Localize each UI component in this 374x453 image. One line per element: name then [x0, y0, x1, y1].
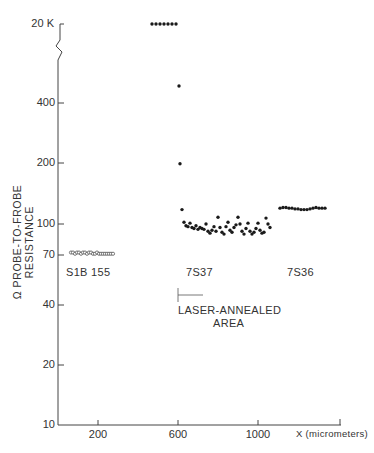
- data-point: [320, 206, 323, 209]
- data-point: [278, 206, 281, 209]
- data-point: [256, 221, 259, 224]
- xtick-1000: 1000: [238, 428, 278, 440]
- sample-label-7s36: 7S36: [287, 266, 314, 278]
- data-point: [284, 206, 287, 209]
- data-point: [214, 230, 217, 233]
- data-point: [174, 22, 177, 25]
- data-point: [180, 208, 183, 211]
- data-point: [154, 22, 157, 25]
- data-point: [290, 206, 293, 209]
- data-point: [234, 223, 237, 226]
- data-point: [262, 230, 265, 233]
- data-point: [308, 207, 311, 210]
- y-ticks: [58, 103, 64, 365]
- sample-label-7s37: 7S37: [186, 266, 213, 278]
- data-point: [317, 206, 320, 209]
- data-point: [242, 232, 245, 235]
- annealed-label: LASER-ANNEALED: [178, 304, 281, 316]
- data-point: [177, 84, 180, 87]
- annealed-label-area: AREA: [213, 317, 244, 329]
- data-point: [212, 225, 215, 228]
- data-point: [299, 208, 302, 211]
- data-point: [202, 228, 205, 231]
- data-points: [69, 22, 326, 255]
- data-point: [194, 224, 197, 227]
- data-point: [162, 22, 165, 25]
- data-point: [264, 216, 267, 219]
- laser-annealed-marker: [178, 288, 203, 302]
- data-point: [258, 229, 261, 232]
- data-point: [230, 230, 233, 233]
- x-ticks: [98, 419, 340, 425]
- data-point: [111, 252, 114, 255]
- sample-label-s1b155: S1B 155: [66, 266, 110, 278]
- data-point: [268, 226, 271, 229]
- x-axis-label: X (micrometers): [296, 428, 368, 439]
- data-point: [244, 227, 247, 230]
- data-point: [254, 227, 257, 230]
- data-point: [150, 22, 153, 25]
- data-point: [311, 206, 314, 209]
- data-point: [178, 162, 181, 165]
- data-point: [240, 230, 243, 233]
- data-point: [302, 208, 305, 211]
- ytick-10: 10: [15, 418, 55, 430]
- data-point: [166, 22, 169, 25]
- data-point: [186, 225, 189, 228]
- data-point: [296, 207, 299, 210]
- data-point: [158, 22, 161, 25]
- data-point: [248, 230, 251, 233]
- data-point: [314, 206, 317, 209]
- data-point: [222, 232, 225, 235]
- data-point: [287, 206, 290, 209]
- ytick-20k: 20 K: [14, 17, 54, 29]
- data-point: [188, 221, 191, 224]
- ytick-20: 20: [15, 358, 55, 370]
- data-point: [216, 216, 219, 219]
- data-point: [252, 230, 255, 233]
- data-point: [238, 222, 241, 225]
- data-point: [224, 225, 227, 228]
- data-point: [210, 229, 213, 232]
- data-point: [293, 207, 296, 210]
- data-point: [208, 231, 211, 234]
- data-point: [236, 216, 239, 219]
- xtick-600: 600: [158, 428, 198, 440]
- data-point: [218, 226, 221, 229]
- data-point: [226, 221, 229, 224]
- scatter-plot: [0, 0, 374, 453]
- data-point: [170, 22, 173, 25]
- ytick-400: 400: [15, 96, 55, 108]
- data-point: [281, 206, 284, 209]
- data-point: [305, 208, 308, 211]
- data-point: [182, 221, 185, 224]
- data-point: [246, 221, 249, 224]
- xtick-200: 200: [78, 428, 118, 440]
- data-point: [266, 222, 269, 225]
- y-axis-label: Ω PROBE-TO-FROBE RESISTANCE: [11, 157, 35, 327]
- data-point: [192, 227, 195, 230]
- data-point: [204, 222, 207, 225]
- data-point: [323, 206, 326, 209]
